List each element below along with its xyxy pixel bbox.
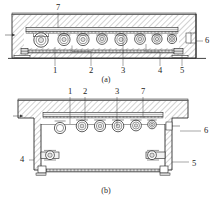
caption-b: (b) xyxy=(101,186,111,195)
rail-underplate-a xyxy=(26,32,178,34)
callout-3-b: 3 xyxy=(115,86,119,96)
rail-underplate-b xyxy=(43,117,163,119)
roller-a-6 xyxy=(134,34,146,45)
roller-a-2 xyxy=(58,33,71,45)
drawing-canvas: 7 6 1 2 3 4 5 (a) xyxy=(0,0,218,205)
roller-a-4 xyxy=(96,34,108,45)
callout-6-b: 6 xyxy=(204,125,208,135)
callout-3-a: 3 xyxy=(121,65,125,75)
roller-b-2 xyxy=(76,120,88,132)
left-bolt-fitting-b xyxy=(41,150,59,160)
roller-a-1 xyxy=(33,33,49,47)
roller-a-8 xyxy=(167,34,177,43)
right-bolt-fitting-b xyxy=(146,150,165,160)
top-cover-strip-a xyxy=(12,13,196,15)
engineering-figure: 7 6 1 2 3 4 5 (a) xyxy=(0,0,218,205)
callout-6-a: 6 xyxy=(205,35,209,45)
caption-a: (a) xyxy=(102,75,111,84)
callout-2-a: 2 xyxy=(89,65,93,75)
roller-b-4 xyxy=(112,120,124,132)
callout-7-a: 7 xyxy=(56,2,60,12)
bottom-band-b xyxy=(46,169,160,171)
roller-a-7 xyxy=(152,34,163,44)
top-cover-strip-b xyxy=(18,99,188,101)
callout-1-a: 1 xyxy=(53,65,57,75)
callout-1-b: 1 xyxy=(68,86,72,96)
roller-b-5 xyxy=(130,120,141,131)
callout-5-b: 5 xyxy=(192,158,196,168)
callout-7-b: 7 xyxy=(141,86,145,96)
callout-5-a: 5 xyxy=(180,65,184,75)
roller-a-3 xyxy=(77,33,90,45)
roller-b-3 xyxy=(94,120,106,132)
roller-b-6 xyxy=(147,120,157,129)
callout-2-b: 2 xyxy=(83,86,87,96)
roller-a-5 xyxy=(115,33,128,45)
